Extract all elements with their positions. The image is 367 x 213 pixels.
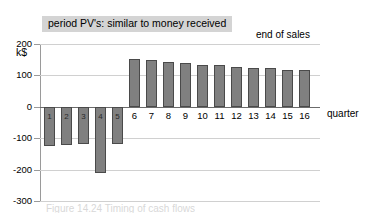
gridline-200: [40, 44, 320, 45]
y-tick-100: [34, 75, 40, 76]
bar-quarter-15[interactable]: [282, 70, 293, 107]
x-tick-label-1: 1: [44, 112, 55, 121]
y-tick-label--300: -300: [0, 196, 32, 206]
x-tick-label-13: 13: [246, 111, 262, 121]
bar-quarter-8[interactable]: [163, 62, 174, 107]
x-tick-label-5: 5: [112, 112, 123, 121]
y-tick-200: [34, 44, 40, 45]
bar-quarter-11[interactable]: [214, 65, 225, 106]
y-tick--100: [34, 138, 40, 139]
bar-quarter-13[interactable]: [248, 68, 259, 107]
x-axis-title: quarter: [327, 108, 359, 120]
bar-quarter-16[interactable]: [299, 70, 310, 106]
y-tick-label-100: 100: [0, 70, 32, 80]
y-tick-0: [34, 107, 40, 108]
x-tick-label-2: 2: [61, 112, 72, 121]
chart-figure: period PV's: similar to money received e…: [0, 0, 367, 213]
y-tick-label-200: 200: [0, 39, 32, 49]
gridline--200: [40, 170, 320, 171]
y-tick-label--200: -200: [0, 165, 32, 175]
x-tick-label-14: 14: [263, 111, 279, 121]
bar-quarter-9[interactable]: [180, 63, 191, 107]
x-tick-label-6: 6: [127, 111, 143, 121]
x-tick-label-15: 15: [280, 111, 296, 121]
figure-caption: Figure 14.24 Timing of cash flows: [46, 203, 195, 213]
y-axis-line: [40, 44, 41, 201]
x-tick-label-8: 8: [161, 111, 177, 121]
x-tick-label-12: 12: [229, 111, 245, 121]
x-tick-label-11: 11: [212, 111, 228, 121]
bar-quarter-6[interactable]: [129, 59, 140, 107]
x-tick-label-3: 3: [78, 112, 89, 121]
x-tick-label-10: 10: [195, 111, 211, 121]
x-tick-label-4: 4: [95, 112, 106, 121]
y-tick--300: [34, 201, 40, 202]
bar-quarter-10[interactable]: [197, 65, 208, 107]
bar-quarter-14[interactable]: [265, 68, 276, 106]
y-tick-label-0: 0: [0, 102, 32, 112]
end-of-sales-annotation: end of sales: [256, 29, 310, 41]
x-tick-label-7: 7: [144, 111, 160, 121]
chart-title-banner: period PV's: similar to money received: [42, 16, 232, 32]
bar-quarter-7[interactable]: [146, 60, 157, 107]
bar-quarter-12[interactable]: [231, 67, 242, 107]
x-tick-label-16: 16: [297, 111, 313, 121]
plot-area: 2001000-100-200-300123456789101112131415…: [40, 44, 320, 201]
gridline--300: [40, 201, 320, 202]
y-tick--200: [34, 170, 40, 171]
y-tick-label--100: -100: [0, 133, 32, 143]
x-tick-label-9: 9: [178, 111, 194, 121]
